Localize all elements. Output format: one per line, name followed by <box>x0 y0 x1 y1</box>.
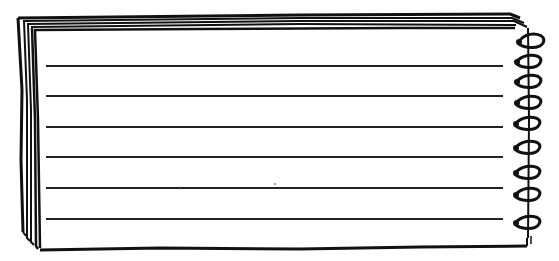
spiral-notepad-illustration <box>0 0 559 261</box>
ruled-lines <box>46 66 503 219</box>
page-stack <box>18 14 531 250</box>
spiral-binding <box>513 28 544 238</box>
